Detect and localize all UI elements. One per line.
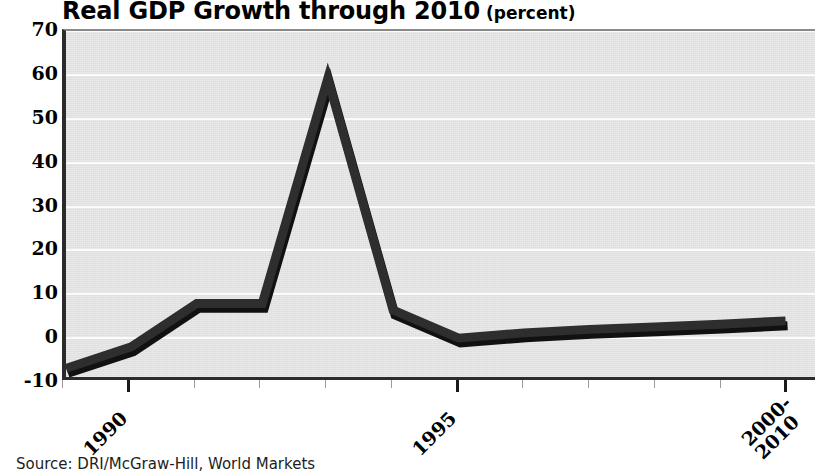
x-axis-minor-tick	[588, 380, 589, 388]
x-axis-tick-label: 2000-2010	[739, 393, 809, 463]
plot-area	[62, 29, 815, 380]
y-axis-tick-label: 50	[4, 107, 58, 126]
x-axis-minor-tick	[522, 380, 523, 388]
chart-title-row: Real GDP Growth through 2010(percent)	[62, 0, 575, 23]
y-axis-tick-label: 70	[4, 20, 58, 39]
y-axis-tick-label: 30	[4, 195, 58, 214]
x-axis-major-tick	[127, 380, 130, 392]
chart-figure: Real GDP Growth through 2010(percent) 70…	[0, 0, 815, 472]
x-axis-minor-tick	[325, 380, 326, 388]
x-axis-tick-label-line: 1990	[80, 408, 131, 459]
x-axis-minor-tick	[720, 380, 721, 388]
y-axis-tick-label: 0	[4, 327, 58, 346]
x-axis-minor-tick	[62, 380, 63, 388]
y-axis-tick-label: 10	[4, 283, 58, 302]
x-axis-minor-tick	[194, 380, 195, 388]
x-axis-tick-label: 1995	[408, 408, 459, 459]
x-axis-labels: 199019952000-2010	[62, 392, 815, 456]
y-axis: 706050403020100-10	[0, 29, 58, 380]
x-axis-minor-tick	[391, 380, 392, 388]
y-axis-tick-label: 60	[4, 63, 58, 82]
x-axis-minor-tick	[654, 380, 655, 388]
x-axis-tick-label-line: 1995	[408, 408, 459, 459]
x-axis-major-tick	[456, 380, 459, 392]
page-title: Real GDP Growth through 2010	[62, 0, 480, 25]
series-line-gdp-growth	[66, 31, 815, 377]
y-axis-tick-label: 20	[4, 239, 58, 258]
y-axis-tick-label: -10	[4, 371, 58, 390]
x-axis-tick-label: 1990	[80, 408, 131, 459]
x-axis-ticks	[62, 380, 815, 392]
source-note: Source: DRI/McGraw-Hill, World Markets	[16, 455, 315, 472]
chart-units-label: (percent)	[486, 3, 575, 23]
x-axis-major-tick	[784, 380, 787, 392]
y-axis-tick-label: 40	[4, 151, 58, 170]
x-axis-minor-tick	[259, 380, 260, 388]
